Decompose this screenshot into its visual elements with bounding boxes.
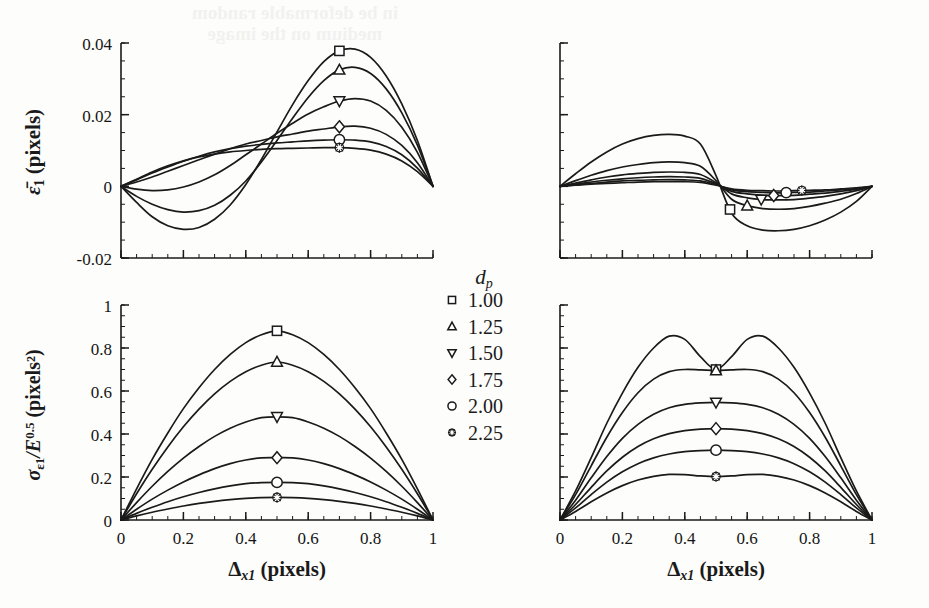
panel-top-left: -0.0200.020.04 <box>77 35 433 269</box>
legend-item-2.00[interactable]: 2.00 <box>448 395 503 417</box>
legend-item-label: 1.50 <box>468 342 503 364</box>
curve-bottom-left-1.75 <box>121 458 433 520</box>
marker-triangle-down <box>448 350 456 358</box>
marker-triangle-up <box>272 356 283 366</box>
marker-circle <box>711 445 721 455</box>
marker-star <box>711 471 721 481</box>
y-tick-label: 1 <box>104 297 113 316</box>
panel-bottom-right: 00.20.40.60.81 <box>556 305 877 548</box>
curve-top-left-1.75 <box>121 126 433 186</box>
marker-star <box>448 428 456 436</box>
y-axis-label-bottom-text: σε1/E0.5 (pixels²) <box>22 349 47 480</box>
legend-item-label: 1.75 <box>468 369 503 391</box>
y-tick-label: 0.6 <box>91 383 112 402</box>
marker-star <box>334 142 344 152</box>
legend-item-label: 2.00 <box>468 395 503 417</box>
legend-item-1.00[interactable]: 1.00 <box>448 289 503 311</box>
x-tick-label: 1 <box>429 529 438 548</box>
marker-diamond <box>334 121 344 133</box>
marker-circle <box>272 477 282 487</box>
x-tick-label: 0 <box>117 529 126 548</box>
marker-triangle-up <box>448 322 456 330</box>
y-tick-label: 0 <box>104 512 113 531</box>
marker-star <box>272 492 282 502</box>
y-tick-label: -0.02 <box>77 250 112 269</box>
x-tick-label: 0.2 <box>173 529 194 548</box>
figure-root: in be deformable random medium on the im… <box>0 0 929 608</box>
x-tick-label: 0.4 <box>235 529 257 548</box>
y-tick-label: 0.04 <box>82 35 112 54</box>
x-tick-label: 0.8 <box>360 529 381 548</box>
x-axis-label-bottom-left: Δx1 (pixels) <box>228 557 326 583</box>
y-axis-label-top-text: ε̄1 (pixels) <box>21 109 47 195</box>
curve-bottom-right-2.00 <box>560 450 872 520</box>
legend-item-label: 1.00 <box>468 289 503 311</box>
x-tick-label: 0.2 <box>612 529 633 548</box>
x-tick-label: 0 <box>556 529 565 548</box>
figure-canvas: -0.0200.020.0400.20.40.60.8100.20.40.60.… <box>0 0 929 608</box>
legend-item-2.25[interactable]: 2.25 <box>448 422 503 444</box>
legend-item-label: 1.25 <box>468 316 503 338</box>
marker-diamond <box>272 452 282 464</box>
x-tick-label: 0.6 <box>737 529 758 548</box>
y-tick-label: 0.8 <box>91 340 112 359</box>
y-tick-label: 0 <box>104 178 113 197</box>
y-axis-label-bottom: σε1/E0.5 (pixels²) <box>22 349 47 480</box>
y-axis-label-top: ε̄1 (pixels) <box>21 109 47 195</box>
curve-top-left-1.50 <box>121 99 433 191</box>
x-tick-label: 0.6 <box>298 529 319 548</box>
marker-square <box>272 326 281 335</box>
marker-square <box>725 205 734 214</box>
legend: dp1.001.251.501.752.002.25 <box>448 265 503 444</box>
panel-bottom-left: 00.20.40.60.8100.20.40.60.81 <box>91 297 438 548</box>
x-tick-label: 1 <box>868 529 877 548</box>
marker-square <box>335 46 344 55</box>
curve-top-left-2.00 <box>121 140 433 187</box>
legend-item-1.25[interactable]: 1.25 <box>448 316 503 338</box>
y-tick-label: 0.4 <box>91 426 113 445</box>
curve-bottom-right-1.50 <box>560 402 872 520</box>
panel-top-right <box>560 43 872 258</box>
y-tick-label: 0.2 <box>91 469 112 488</box>
marker-diamond <box>448 375 456 384</box>
y-tick-label: 0.02 <box>82 107 112 126</box>
legend-title: dp <box>475 265 493 291</box>
marker-star <box>797 185 807 195</box>
legend-item-1.75[interactable]: 1.75 <box>448 369 503 391</box>
x-tick-label: 0.4 <box>674 529 696 548</box>
x-axis-label-bottom-right: Δx1 (pixels) <box>667 557 765 583</box>
legend-item-1.50[interactable]: 1.50 <box>448 342 503 364</box>
legend-item-label: 2.25 <box>468 422 503 444</box>
marker-square <box>448 296 455 303</box>
marker-circle <box>781 187 791 197</box>
marker-diamond <box>711 423 721 435</box>
x-tick-label: 0.8 <box>799 529 820 548</box>
marker-circle <box>448 402 456 410</box>
